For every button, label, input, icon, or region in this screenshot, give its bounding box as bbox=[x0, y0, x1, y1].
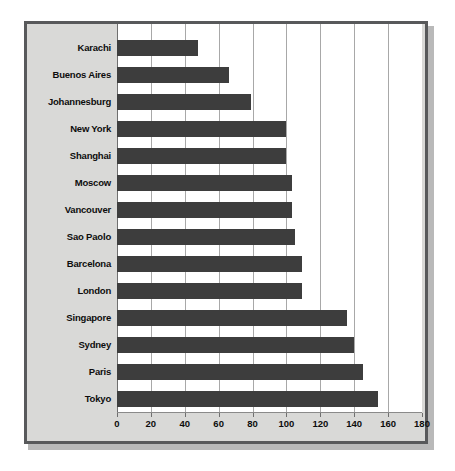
bar-karachi bbox=[117, 40, 198, 56]
category-axis-labels: KarachiBuenos AiresJohannesburgNew YorkS… bbox=[27, 24, 117, 441]
bar-row bbox=[117, 148, 422, 164]
tick-mark-20 bbox=[151, 413, 152, 417]
bar-row bbox=[117, 67, 422, 83]
tick-label-160: 160 bbox=[380, 418, 396, 429]
tick-mark-180 bbox=[422, 413, 423, 417]
bar-chart-figure: KarachiBuenos AiresJohannesburgNew YorkS… bbox=[0, 0, 455, 471]
category-label-johannesburg: Johannesburg bbox=[48, 96, 111, 107]
tick-mark-120 bbox=[320, 413, 321, 417]
plot-area bbox=[117, 24, 422, 413]
bar-moscow bbox=[117, 175, 292, 191]
category-label-london: London bbox=[77, 285, 111, 296]
tick-label-180: 180 bbox=[414, 418, 430, 429]
axis-baseline bbox=[117, 412, 422, 413]
bar-sao-paolo bbox=[117, 229, 295, 245]
bar-buenos-aires bbox=[117, 67, 229, 83]
bar-paris bbox=[117, 364, 363, 380]
bar-vancouver bbox=[117, 202, 292, 218]
bar-row bbox=[117, 229, 422, 245]
tick-mark-80 bbox=[253, 413, 254, 417]
category-label-karachi: Karachi bbox=[78, 42, 111, 53]
category-label-paris: Paris bbox=[89, 366, 111, 377]
bar-row bbox=[117, 256, 422, 272]
bar-row bbox=[117, 94, 422, 110]
tick-label-0: 0 bbox=[114, 418, 119, 429]
bar-row bbox=[117, 391, 422, 407]
bar-row bbox=[117, 283, 422, 299]
bar-johannesburg bbox=[117, 94, 251, 110]
tick-mark-160 bbox=[388, 413, 389, 417]
bars-layer bbox=[117, 24, 422, 413]
bar-row bbox=[117, 310, 422, 326]
category-label-tokyo: Tokyo bbox=[85, 393, 111, 404]
bar-new-york bbox=[117, 121, 286, 137]
category-label-sydney: Sydney bbox=[78, 339, 111, 350]
bar-sydney bbox=[117, 337, 354, 353]
bar-row bbox=[117, 121, 422, 137]
category-label-singapore: Singapore bbox=[66, 312, 111, 323]
bar-singapore bbox=[117, 310, 347, 326]
bar-shanghai bbox=[117, 148, 286, 164]
tick-label-20: 20 bbox=[146, 418, 157, 429]
bar-barcelona bbox=[117, 256, 302, 272]
tick-label-100: 100 bbox=[279, 418, 295, 429]
tick-mark-60 bbox=[219, 413, 220, 417]
bar-row bbox=[117, 337, 422, 353]
bar-london bbox=[117, 283, 302, 299]
bar-row bbox=[117, 364, 422, 380]
bar-row bbox=[117, 40, 422, 56]
bar-row bbox=[117, 175, 422, 191]
category-label-shanghai: Shanghai bbox=[70, 150, 111, 161]
category-label-new-york: New York bbox=[70, 123, 111, 134]
tick-mark-40 bbox=[185, 413, 186, 417]
chart-frame: KarachiBuenos AiresJohannesburgNew YorkS… bbox=[24, 21, 428, 444]
tick-label-140: 140 bbox=[346, 418, 362, 429]
tick-mark-0 bbox=[117, 413, 118, 417]
bar-row bbox=[117, 202, 422, 218]
tick-label-40: 40 bbox=[179, 418, 190, 429]
tick-label-60: 60 bbox=[213, 418, 224, 429]
category-label-barcelona: Barcelona bbox=[67, 258, 111, 269]
x-axis-tick-labels: 020406080100120140160180 bbox=[117, 418, 422, 434]
tick-label-80: 80 bbox=[247, 418, 258, 429]
category-label-sao-paolo: Sao Paolo bbox=[67, 231, 111, 242]
bar-tokyo bbox=[117, 391, 378, 407]
category-label-buenos-aires: Buenos Aires bbox=[53, 69, 112, 80]
category-label-moscow: Moscow bbox=[75, 177, 111, 188]
category-label-vancouver: Vancouver bbox=[65, 204, 111, 215]
tick-mark-140 bbox=[354, 413, 355, 417]
tick-label-120: 120 bbox=[312, 418, 328, 429]
tick-mark-100 bbox=[286, 413, 287, 417]
